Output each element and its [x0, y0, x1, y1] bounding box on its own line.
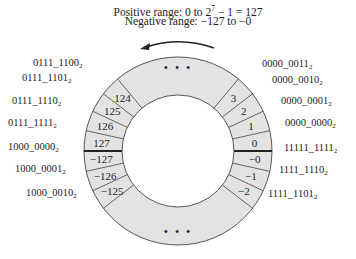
- segment-value: −126: [94, 170, 117, 182]
- segment-value: −0: [249, 153, 261, 165]
- segment-value: 126: [97, 120, 114, 132]
- ellipsis-top: • • •: [164, 61, 193, 75]
- binary-label: 1000_00102: [26, 187, 77, 200]
- segment-value: 124: [114, 92, 131, 104]
- counterclockwise-arrow-icon: [140, 42, 214, 50]
- binary-label: 0111_11112: [8, 117, 57, 130]
- binary-label: 0111_11012: [22, 72, 72, 85]
- segment-value: −125: [101, 185, 124, 197]
- binary-label: 0000_00102: [272, 74, 323, 87]
- segment-value: 125: [104, 105, 121, 117]
- segment-value: 1: [248, 120, 254, 132]
- segment-value: 2: [241, 105, 247, 117]
- segment-value: −1: [245, 170, 257, 182]
- binary-label: 1111_11102: [279, 164, 328, 177]
- segment-value: 127: [93, 137, 110, 149]
- binary-label: 0000_00002: [285, 117, 336, 130]
- binary-label: 1111_11012: [268, 188, 317, 201]
- binary-label: 11111_11112: [284, 142, 337, 155]
- segment-value: 3: [231, 92, 237, 104]
- binary-label: 1000_00012: [15, 163, 66, 176]
- binary-label: 1000_00002: [8, 141, 59, 154]
- ellipsis-bottom: • • •: [164, 225, 193, 239]
- binary-label: 0000_00012: [281, 95, 332, 108]
- binary-label: 0000_00112: [262, 58, 312, 71]
- binary-label: 0111_11002: [33, 57, 83, 70]
- segment-value: −2: [238, 185, 250, 197]
- binary-label: 0111_11102: [12, 95, 61, 108]
- segment-value: 0: [252, 137, 258, 149]
- segment-value: −127: [90, 153, 113, 165]
